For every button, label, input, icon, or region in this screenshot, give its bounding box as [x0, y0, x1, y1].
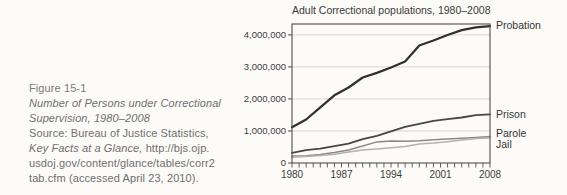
xtick-label-1994: 1994: [380, 169, 403, 180]
series-label-probation: Probation: [496, 19, 541, 31]
line-chart: Adult Correctional populations, 1980–200…: [0, 0, 567, 195]
ytick-label-1000000: 1,000,000: [244, 125, 286, 136]
series-line-parole: [292, 137, 490, 157]
chart-title: Adult Correctional populations, 1980–200…: [292, 4, 491, 16]
series-label-jail: Jail: [496, 138, 512, 150]
ytick-label-3000000: 3,000,000: [244, 61, 286, 72]
xtick-label-2008: 2008: [479, 169, 502, 180]
series-label-prison: Prison: [496, 108, 526, 120]
xtick-label-1980: 1980: [281, 169, 304, 180]
xtick-label-1987: 1987: [330, 169, 353, 180]
axes: [288, 24, 490, 168]
gridlines: [292, 35, 490, 131]
figure-15-1: Figure 15-1 Number of Persons under Corr…: [0, 0, 567, 195]
series-label-parole: Parole: [496, 127, 527, 139]
axis-labels: 01,000,0002,000,0003,000,0004,000,000198…: [244, 19, 541, 180]
ytick-label-2000000: 2,000,000: [244, 93, 286, 104]
series-line-probation: [292, 26, 490, 127]
ytick-label-4000000: 4,000,000: [244, 29, 286, 40]
ytick-label-0: 0: [281, 157, 286, 168]
data-series: [292, 26, 490, 157]
xtick-label-2001: 2001: [429, 169, 452, 180]
plot-border: [292, 24, 490, 163]
